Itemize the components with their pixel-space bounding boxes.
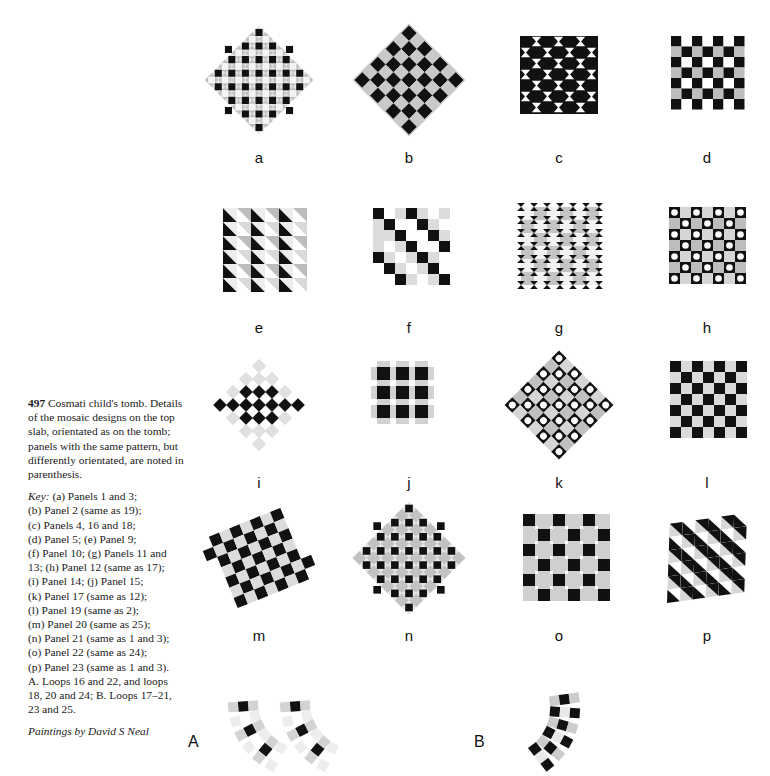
panel-i: i: [186, 347, 332, 491]
diamond-lattice-icon: [193, 22, 325, 142]
panel-j: j: [336, 347, 482, 491]
figure-title: Cosmati child's tomb.: [48, 397, 147, 409]
panel-p-label: p: [634, 627, 770, 644]
panel-c: c: [486, 22, 632, 166]
key-line: (c) Panels 4, 16 and 18;: [28, 518, 186, 532]
key-line: 18, 20 and 24; B. Loops 17–21,: [28, 688, 186, 702]
key-line: (i) Panel 14; (j) Panel 15;: [28, 574, 186, 588]
panel-d: d: [634, 22, 770, 166]
panel-k: k: [486, 347, 632, 491]
panel-d-artwork: [634, 22, 770, 142]
caption-key-paragraph: Key: (a) Panels 1 and 3;(b) Panel 2 (sam…: [28, 489, 186, 716]
key-line: A. Loops 16 and 22, and loops: [28, 674, 186, 688]
panel-o: o: [486, 500, 632, 644]
panel-n-label: n: [336, 627, 482, 644]
panel-c-label: c: [486, 149, 632, 166]
panel-o-artwork: [486, 500, 632, 620]
loop-strips-row: A B: [186, 650, 770, 770]
key-line: (k) Panel 17 (same as 12);: [28, 589, 186, 603]
key-line: (b) Panel 2 (same as 19);: [28, 503, 186, 517]
key-line: (n) Panel 21 (same as 1 and 3);: [28, 631, 186, 645]
panel-c-artwork: [486, 22, 632, 142]
octagon-bowtie-icon: [493, 192, 625, 312]
panel-b: b: [336, 22, 482, 166]
loop-b-label: B: [474, 733, 491, 765]
key-lines: (a) Panels 1 and 3;(b) Panel 2 (same as …: [28, 490, 186, 716]
three-by-three-grid-icon: [343, 347, 475, 467]
bowtie-circle-grid-icon: [493, 22, 625, 142]
panel-g-artwork: [486, 192, 632, 312]
panel-l-artwork: [634, 347, 770, 467]
key-line: (d) Panel 5; (e) Panel 9;: [28, 532, 186, 546]
panel-e-label: e: [186, 319, 332, 336]
panel-g-label: g: [486, 319, 632, 336]
panel-a-label: a: [186, 149, 332, 166]
panel-a: a: [186, 22, 332, 166]
figure-description: Details of the mosaic designs on the top…: [28, 397, 184, 480]
key-line: (f) Panel 10; (g) Panels 11 and: [28, 546, 186, 560]
key-line: 23 and 25.: [28, 702, 186, 716]
panel-o-label: o: [486, 627, 632, 644]
loop-group-b: B: [474, 650, 601, 765]
key-line: (m) Panel 20 (same as 25);: [28, 617, 186, 631]
panel-d-label: d: [634, 149, 770, 166]
panel-k-artwork: [486, 347, 632, 467]
panel-f-artwork: [336, 192, 482, 312]
panel-f: f: [336, 192, 482, 336]
skewed-triangle-icon: [641, 498, 770, 622]
panel-i-artwork: [186, 347, 332, 467]
panel-p-artwork: [634, 500, 770, 620]
key-line: (o) Panel 22 (same as 24);: [28, 645, 186, 659]
rotated-circle-grid-icon: [490, 345, 628, 469]
figure-credit: Paintings by David S Neal: [28, 724, 186, 738]
panel-i-label: i: [186, 474, 332, 491]
panel-n: n: [336, 500, 482, 644]
panel-l: l: [634, 347, 770, 491]
panel-e: e: [186, 192, 332, 336]
loop-a-label: A: [188, 733, 205, 765]
key-line: (p) Panel 23 (same as 1 and 3).: [28, 660, 186, 674]
panel-k-label: k: [486, 474, 632, 491]
key-line: 13; (h) Panel 12 (same as 17);: [28, 560, 186, 574]
figure-number: 497: [28, 397, 45, 409]
circles-in-squares-icon: [641, 192, 770, 312]
panel-m: m: [186, 500, 332, 644]
open-grid-checkerboard-icon: [493, 498, 625, 622]
figure-caption: 497 Cosmati child's tomb. Details of the…: [28, 396, 186, 739]
panel-e-artwork: [186, 192, 332, 312]
panel-m-artwork: [186, 500, 332, 620]
panel-h-artwork: [634, 192, 770, 312]
panel-p: p: [634, 500, 770, 644]
half-square-triangles-icon: [193, 192, 325, 312]
panel-g: g: [486, 192, 632, 336]
caption-description-paragraph: 497 Cosmati child's tomb. Details of the…: [28, 396, 186, 481]
loop-a-artwork: [205, 650, 355, 765]
panel-j-label: j: [336, 474, 482, 491]
checkerboard-icon: [641, 22, 770, 142]
panel-n-artwork: [336, 500, 482, 620]
panel-h: h: [634, 192, 770, 336]
panel-l-label: l: [634, 474, 770, 491]
loop-b-artwork: [491, 650, 601, 765]
plain-checkerboard-icon: [641, 347, 770, 467]
key-label: Key:: [28, 490, 50, 502]
panel-m-label: m: [186, 627, 332, 644]
key-line: (l) Panel 19 (same as 2);: [28, 603, 186, 617]
tilted-checkerboard-icon: [193, 498, 325, 622]
panel-b-label: b: [336, 149, 482, 166]
rotated-checkerboard-icon: [343, 22, 475, 142]
panel-b-artwork: [336, 22, 482, 142]
loop-group-a: A: [188, 650, 355, 765]
panel-f-label: f: [336, 319, 482, 336]
key-line: (a) Panels 1 and 3;: [52, 490, 137, 502]
panel-h-label: h: [634, 319, 770, 336]
panel-j-artwork: [336, 347, 482, 467]
dense-diamond-lattice-icon: [343, 498, 475, 622]
diagonal-bands-icon: [343, 192, 475, 312]
panel-a-artwork: [186, 22, 332, 142]
sparse-diamond-icon: [190, 347, 328, 467]
